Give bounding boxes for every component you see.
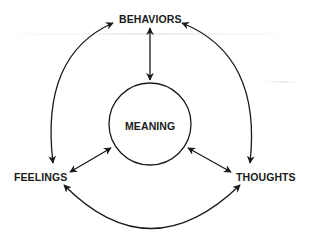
arc-behaviors-thoughts xyxy=(182,23,252,163)
arc-behaviors-feelings xyxy=(51,23,113,163)
node-meaning: MEANING xyxy=(125,120,175,132)
arrow-feelings-meaning xyxy=(70,148,111,172)
node-thoughts: THOUGHTS xyxy=(236,171,296,183)
arrow-thoughts-meaning xyxy=(188,148,231,172)
node-feelings: FEELINGS xyxy=(14,171,67,183)
node-behaviors: BEHAVIORS xyxy=(119,13,182,25)
diagram-canvas: BEHAVIORS MEANING FEELINGS THOUGHTS xyxy=(0,0,309,247)
arc-feelings-thoughts xyxy=(64,185,240,229)
